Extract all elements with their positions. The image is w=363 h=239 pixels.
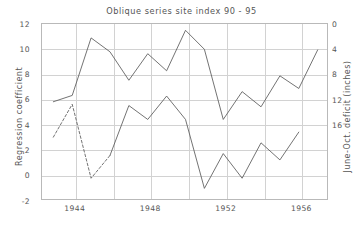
series-regression-coefficient	[53, 30, 317, 119]
xtick-1944: 1944	[50, 204, 100, 213]
xtick-1948: 1948	[125, 204, 175, 213]
ytick-right-0: 0	[332, 20, 358, 29]
ytick-left-minus2: -2	[4, 197, 30, 206]
y-axis-label-left: Regression coefficient	[15, 52, 24, 182]
xtick-1956: 1956	[276, 204, 326, 213]
y-axis-label-right: June-Oct. deficit (inches)	[343, 52, 352, 182]
chart-title: Oblique series site index 90 - 95	[0, 6, 363, 16]
plot-area	[41, 23, 328, 200]
ytick-left-12: 12	[4, 20, 30, 29]
series-deficit-dashed	[53, 104, 110, 178]
series-deficit-solid	[110, 96, 299, 188]
xtick-1952: 1952	[201, 204, 251, 213]
series-layer	[42, 24, 329, 201]
chart-figure: Oblique series site index 90 - 95 12 10 …	[0, 0, 363, 239]
